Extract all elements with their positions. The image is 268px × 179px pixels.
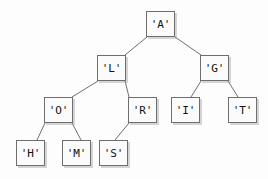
tree-edge-l-o bbox=[72, 81, 98, 97]
tree-edge-r-s bbox=[115, 123, 129, 140]
tree-node-label: 'S' bbox=[104, 148, 123, 159]
tree-node-s[interactable]: 'S' bbox=[99, 140, 128, 166]
tree-edge-o-h bbox=[37, 123, 45, 140]
tree-node-l[interactable]: 'L' bbox=[97, 55, 126, 81]
tree-edge-a-g bbox=[175, 37, 201, 55]
tree-edge-g-i bbox=[191, 81, 201, 97]
tree-node-r[interactable]: 'R' bbox=[128, 97, 157, 123]
tree-node-a[interactable]: 'A' bbox=[146, 11, 175, 37]
tree-node-label: 'R' bbox=[133, 105, 152, 116]
tree-edge-o-m bbox=[72, 123, 81, 140]
tree-node-label: 'I' bbox=[176, 105, 195, 116]
binary-tree-diagram: 'A''L''G''O''R''I''T''H''M''S' bbox=[0, 0, 268, 179]
tree-node-label: 'M' bbox=[67, 148, 86, 159]
tree-node-g[interactable]: 'G' bbox=[200, 55, 229, 81]
tree-node-label: 'L' bbox=[102, 63, 121, 74]
tree-node-label: 'H' bbox=[21, 148, 40, 159]
tree-node-label: 'T' bbox=[233, 105, 252, 116]
tree-node-label: 'O' bbox=[49, 105, 68, 116]
tree-node-m[interactable]: 'M' bbox=[62, 140, 91, 166]
tree-node-h[interactable]: 'H' bbox=[16, 140, 45, 166]
tree-node-label: 'A' bbox=[151, 19, 170, 30]
tree-node-label: 'G' bbox=[205, 63, 224, 74]
tree-node-i[interactable]: 'I' bbox=[171, 97, 200, 123]
tree-node-t[interactable]: 'T' bbox=[228, 97, 257, 123]
tree-node-o[interactable]: 'O' bbox=[44, 97, 73, 123]
tree-edge-l-r bbox=[125, 81, 129, 97]
tree-edge-a-l bbox=[125, 37, 147, 55]
tree-edge-g-t bbox=[228, 81, 238, 97]
